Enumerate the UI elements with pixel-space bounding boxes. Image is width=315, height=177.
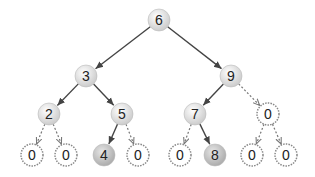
node-label: 7 xyxy=(191,106,199,122)
tree-node: 3 xyxy=(75,65,97,87)
node-label: 0 xyxy=(28,147,36,163)
tree-node: 5 xyxy=(111,103,133,125)
node-label: 0 xyxy=(62,147,70,163)
null-node: 0 xyxy=(241,144,263,166)
null-node: 0 xyxy=(169,144,191,166)
edges-layer xyxy=(37,27,282,145)
tree-node: 2 xyxy=(38,103,60,125)
node-label: 0 xyxy=(264,106,272,122)
node-label: 6 xyxy=(155,12,163,28)
null-node: 0 xyxy=(21,144,43,166)
tree-node: 7 xyxy=(184,103,206,125)
node-label: 0 xyxy=(134,147,142,163)
node-label: 0 xyxy=(176,147,184,163)
tree-node: 6 xyxy=(148,9,170,31)
node-label: 5 xyxy=(118,106,126,122)
edge-n6-n9 xyxy=(168,27,222,69)
binary-tree-diagram: 639257000400800 xyxy=(0,0,315,177)
edge-n3-n5 xyxy=(94,84,114,105)
null-node: 0 xyxy=(127,144,149,166)
edge-n5-n0d xyxy=(126,124,134,144)
null-node: 0 xyxy=(55,144,77,166)
tree-node: 4 xyxy=(93,144,115,166)
node-label: 9 xyxy=(227,68,235,84)
nodes-layer: 639257000400800 xyxy=(21,9,297,166)
null-node: 0 xyxy=(257,103,279,125)
edge-n0a-n0f xyxy=(256,124,264,144)
edge-n5-n4 xyxy=(109,124,118,144)
node-label: 0 xyxy=(282,147,290,163)
edge-n3-n2 xyxy=(57,84,78,106)
tree-node: 8 xyxy=(204,144,226,166)
edge-n0a-n0g xyxy=(272,124,281,144)
edge-n9-n7 xyxy=(203,84,223,105)
edge-n9-n0a xyxy=(239,84,260,106)
edge-n2-n0c xyxy=(53,124,61,144)
edge-n7-n8 xyxy=(200,124,210,144)
edge-n7-n0e xyxy=(184,124,191,143)
node-label: 0 xyxy=(248,147,256,163)
node-label: 8 xyxy=(211,147,219,163)
edge-n2-n0b xyxy=(37,124,45,144)
null-node: 0 xyxy=(275,144,297,166)
node-label: 2 xyxy=(45,106,53,122)
node-label: 4 xyxy=(100,147,108,163)
node-label: 3 xyxy=(82,68,90,84)
tree-node: 9 xyxy=(220,65,242,87)
edge-n6-n3 xyxy=(96,27,151,69)
